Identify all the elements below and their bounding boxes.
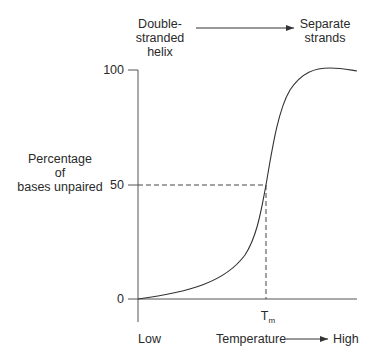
melting-curve xyxy=(138,68,357,299)
melting-curve-chart xyxy=(0,0,376,359)
